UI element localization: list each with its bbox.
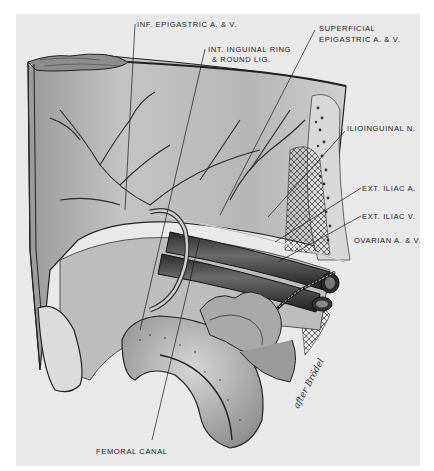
- label-femoral-canal: FEMORAL CANAL: [96, 447, 168, 456]
- label-ext-iliac-a: EXT. ILIAC A.: [362, 184, 416, 193]
- label-int-inguinal-ring: INT. INGUINAL RING: [208, 45, 291, 54]
- label-inf-epigastric: INF. EPIGASTRIC A. & V.: [137, 20, 237, 29]
- label-ovarian: OVARIAN A. & V.: [354, 236, 421, 245]
- label-ext-iliac-v: EXT. ILIAC V.: [362, 212, 416, 221]
- label-ilioinguinal: ILIOINGUINAL N.: [347, 124, 416, 133]
- label-superficial: SUPERFICIAL: [319, 24, 375, 33]
- label-superficial-epigastric: EPIGASTRIC A. & V.: [319, 35, 400, 44]
- label-round-lig: & ROUND LIG.: [212, 55, 271, 64]
